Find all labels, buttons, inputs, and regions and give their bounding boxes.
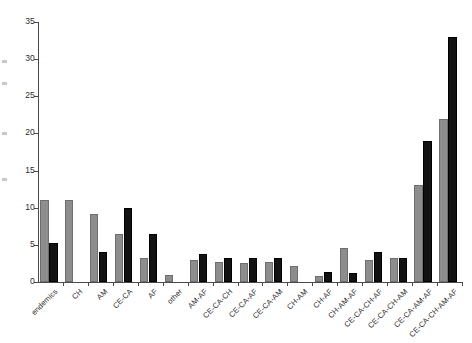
x-tick-mark (113, 282, 114, 286)
bar-CE-CA-series-b (124, 208, 132, 282)
x-tick-mark (163, 282, 164, 286)
x-axis-label-CH: CH (70, 287, 84, 301)
x-tick-mark (412, 282, 413, 286)
y-tick-label: 5 (30, 239, 35, 249)
bar-chart: 05101520253035 endemicsCHAMCE-CAAFotherA… (0, 0, 472, 343)
x-axis-label-endemics: endemics (30, 287, 60, 317)
y-tick-label: 10 (25, 202, 35, 212)
page-margin-artifact (2, 60, 10, 240)
bar-CE-CA-CH-AM-AF-series-b (448, 37, 456, 282)
bar-CE-CA-AM-AF-series-a (414, 185, 422, 282)
bar-CH-AM-series-a (290, 266, 298, 282)
x-axis-label-CH-AM: CH-AM (285, 287, 309, 311)
x-axis-label-AF: AF (146, 287, 159, 300)
x-axis-label-other: other (166, 287, 185, 306)
bar-endemics-series-a (40, 200, 48, 282)
x-axis-line (38, 282, 462, 283)
x-tick-mark (362, 282, 363, 286)
bar-AF-series-a (140, 258, 148, 283)
bar-CE-CA-AM-series-b (274, 258, 282, 282)
y-tick-label: 25 (25, 90, 35, 100)
x-tick-mark (462, 282, 463, 286)
x-axis-label-AM: AM (95, 287, 110, 302)
x-tick-mark (138, 282, 139, 286)
bar-CE-CA-CH-AF-series-b (374, 252, 382, 282)
bar-AM-AF-series-b (199, 254, 207, 282)
bar-other-series-a (165, 275, 173, 282)
y-tick-label: 30 (25, 53, 35, 63)
bar-AM-series-a (90, 214, 98, 282)
x-tick-mark (337, 282, 338, 286)
bar-CE-CA-CH-AM-AF-series-a (439, 119, 447, 282)
x-axis-label-CE-CA: CE-CA (111, 287, 134, 310)
bar-AM-AF-series-a (190, 260, 198, 282)
bar-CE-CA-series-a (115, 234, 123, 282)
x-tick-mark (188, 282, 189, 286)
x-tick-mark (213, 282, 214, 286)
y-tick-label: 15 (25, 165, 35, 175)
bar-CH-AF-series-a (315, 276, 323, 282)
bar-CE-CA-AM-series-a (265, 262, 273, 282)
x-tick-mark (88, 282, 89, 286)
y-tick-label: 35 (25, 16, 35, 26)
x-tick-mark (287, 282, 288, 286)
bar-CH-AM-AF-series-a (340, 248, 348, 282)
bar-AF-series-b (149, 234, 157, 282)
plot-area (38, 22, 462, 282)
x-tick-mark (262, 282, 263, 286)
bar-CE-CA-AF-series-b (249, 258, 257, 283)
bar-CE-CA-AF-series-a (240, 263, 248, 282)
x-axis-label-CH-AF: CH-AF (311, 287, 334, 310)
bar-CE-CA-CH-AF-series-a (365, 260, 373, 282)
x-tick-mark (387, 282, 388, 286)
bar-CH-AM-AF-series-b (349, 273, 357, 282)
x-tick-mark (312, 282, 313, 286)
bar-CH-AF-series-b (324, 272, 332, 282)
bar-CE-CA-CH-series-a (215, 262, 223, 282)
y-tick-label: 20 (25, 127, 35, 137)
x-axis-label-AM-AF: AM-AF (186, 287, 209, 310)
bar-CE-CA-CH-series-b (224, 258, 232, 283)
bar-CE-CA-CH-AM-series-b (399, 258, 407, 283)
bar-endemics-series-b (49, 243, 57, 282)
bar-CH-series-a (65, 200, 73, 282)
x-tick-mark (238, 282, 239, 286)
y-tick-label: 0 (30, 276, 35, 286)
x-tick-mark (437, 282, 438, 286)
bar-AM-series-b (99, 252, 107, 282)
bar-CE-CA-CH-AM-series-a (390, 258, 398, 282)
bar-CE-CA-AM-AF-series-b (423, 141, 431, 282)
x-tick-mark (63, 282, 64, 286)
